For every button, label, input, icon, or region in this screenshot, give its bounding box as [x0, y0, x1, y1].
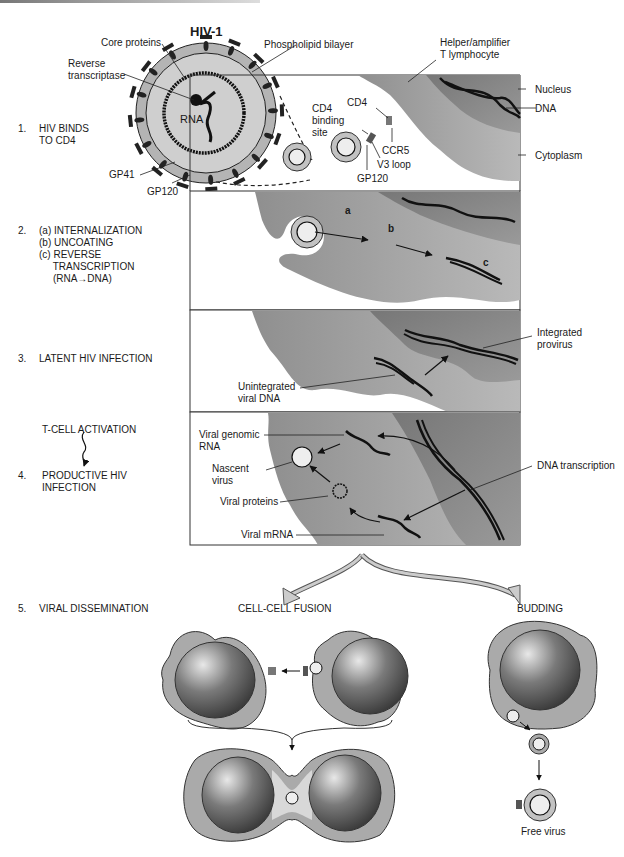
step-2-text: (a) INTERNALIZATION (b) UNCOATING (c) RE… — [39, 225, 142, 285]
step-5-text: VIRAL DISSEMINATION — [39, 603, 148, 615]
label-cell-cell-fusion: CELL-CELL FUSION — [238, 603, 332, 615]
step-2-number: 2. — [18, 225, 26, 237]
figure-title: HIV-1 — [190, 24, 223, 39]
fusion-cells — [162, 631, 408, 842]
step-4-number: 4. — [18, 470, 26, 482]
label-gp120: GP120 — [147, 186, 178, 198]
label-nucleus: Nucleus — [535, 84, 571, 96]
budding-cell — [488, 621, 597, 821]
label-dna-transcription: DNA transcription — [537, 460, 615, 472]
label-helper-t: Helper/amplifier T lymphocyte — [440, 37, 510, 61]
label-reverse-transcriptase: Reverse transcriptase — [68, 58, 125, 82]
label-viral-proteins: Viral proteins — [220, 496, 278, 508]
step-5-number: 5. — [18, 603, 26, 615]
label-cytoplasm: Cytoplasm — [535, 150, 582, 162]
activation-arrow — [82, 432, 85, 466]
split-arrows — [283, 555, 520, 605]
label-viral-mrna: Viral mRNA — [241, 529, 293, 541]
step-3-text: LATENT HIV INFECTION — [39, 353, 153, 365]
marker-a: a — [345, 205, 351, 217]
label-rna: RNA — [180, 113, 203, 125]
label-budding: BUDDING — [517, 603, 563, 615]
label-gp41: GP41 — [109, 169, 135, 181]
label-integrated-provirus: Integrated provirus — [537, 327, 582, 351]
step-1-text: HIV BINDS TO CD4 — [39, 123, 89, 147]
label-v3-loop: V3 loop — [377, 159, 411, 171]
label-phospholipid-bilayer: Phospholipid bilayer — [264, 39, 354, 51]
marker-c: c — [483, 257, 489, 269]
step-3-number: 3. — [18, 353, 26, 365]
label-ccr5: CCR5 — [382, 145, 409, 157]
panel-2-internalization — [190, 191, 520, 310]
label-t-cell-activation: T-CELL ACTIVATION — [42, 424, 136, 436]
step-1-number: 1. — [18, 123, 26, 135]
label-unintegrated-viral-dna: Unintegrated viral DNA — [238, 381, 295, 405]
label-core-proteins: Core proteins — [101, 37, 161, 49]
label-cd4-binding-site: CD4 binding site — [312, 103, 344, 139]
label-viral-genomic-rna: Viral genomic RNA — [199, 429, 259, 453]
label-gp120-panel: GP120 — [357, 173, 388, 185]
label-nascent-virus: Nascent virus — [212, 463, 249, 487]
label-free-virus: Free virus — [521, 826, 565, 838]
label-cd4: CD4 — [347, 97, 367, 109]
label-dna: DNA — [535, 103, 556, 115]
step-4-text: PRODUCTIVE HIV INFECTION — [42, 470, 127, 494]
hiv-virion — [124, 35, 312, 191]
marker-b: b — [388, 223, 394, 235]
